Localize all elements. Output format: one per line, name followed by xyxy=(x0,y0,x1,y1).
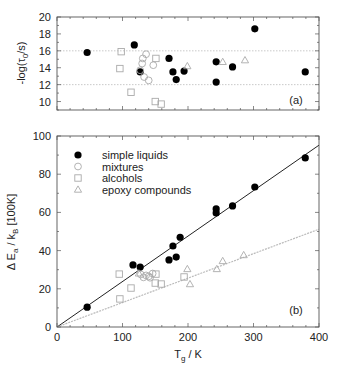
mixture-marker xyxy=(150,62,157,69)
legend-label: alcohols xyxy=(102,172,143,184)
simple-liquid-marker xyxy=(213,79,220,86)
mixture-marker xyxy=(145,77,152,84)
series-simple-liquids xyxy=(84,25,309,85)
x-tick-label: 200 xyxy=(179,331,197,343)
legend-label: mixtures xyxy=(102,161,144,173)
legend-item: simple liquids xyxy=(74,149,168,161)
legend-item: mixtures xyxy=(75,161,144,173)
panel-a-annotation: (a) xyxy=(289,94,302,106)
simple-liquid-marker xyxy=(229,202,236,209)
panel-b-xlabel: Tg / K xyxy=(174,348,202,363)
simple-liquid-marker xyxy=(169,242,176,249)
simple-liquid-marker xyxy=(302,68,309,75)
simple-liquid-marker xyxy=(84,304,91,311)
alcohol-marker xyxy=(152,98,158,104)
alcohol-marker xyxy=(128,285,134,291)
fit-line xyxy=(57,229,319,327)
simple-liquid-marker xyxy=(165,55,172,62)
alcohol-marker xyxy=(75,175,81,181)
y-tick-label: 80 xyxy=(39,168,51,180)
plot-frame xyxy=(57,136,319,327)
alcohol-marker xyxy=(128,89,134,95)
panel-b-ylabel: Δ Ea / kB [100K] xyxy=(5,194,20,270)
alcohol-marker xyxy=(152,280,158,286)
simple-liquid-marker xyxy=(213,58,220,65)
figure: 101214161820 0100200300400020406080100si… xyxy=(0,0,338,374)
y-tick-label: 40 xyxy=(39,245,51,257)
simple-liquid-marker xyxy=(251,25,258,32)
y-tick-label: 100 xyxy=(33,130,51,142)
legend-item: alcohols xyxy=(75,172,143,184)
simple-liquid-marker xyxy=(173,76,180,83)
panel-a-scatter: 101214161820 xyxy=(39,11,319,110)
y-tick-label: 20 xyxy=(39,283,51,295)
x-tick-label: 300 xyxy=(244,331,262,343)
epoxy-marker xyxy=(184,265,191,271)
series-mixtures xyxy=(137,51,157,84)
alcohol-marker xyxy=(117,296,123,302)
y-tick-label: 60 xyxy=(39,206,51,218)
legend-item: epoxy compounds xyxy=(74,184,191,196)
panel-b-annotation: (b) xyxy=(289,304,302,316)
y-tick-label: 14 xyxy=(39,62,51,74)
panel-a-ylabel: -log(τ0/s) xyxy=(15,41,30,84)
x-tick-label: 0 xyxy=(54,331,60,343)
simple-liquid-marker xyxy=(169,68,176,75)
simple-liquid-marker xyxy=(137,263,144,270)
simple-liquid-marker xyxy=(213,209,220,216)
simple-liquid-marker xyxy=(177,234,184,241)
alcohol-marker xyxy=(116,271,122,277)
x-tick-label: 400 xyxy=(310,331,328,343)
alcohol-marker xyxy=(153,55,159,61)
epoxy-marker xyxy=(219,58,226,64)
epoxy-marker xyxy=(213,265,220,271)
chart-svg: 101214161820 0100200300400020406080100si… xyxy=(0,0,338,374)
legend: simple liquidsmixturesalcoholsepoxy comp… xyxy=(74,149,191,196)
mixture-marker xyxy=(75,163,82,170)
simple-liquid-marker xyxy=(229,63,236,70)
simple-liquid-marker xyxy=(84,49,91,56)
epoxy-marker xyxy=(219,257,226,263)
epoxy-marker xyxy=(74,186,81,192)
alcohol-marker xyxy=(117,65,123,71)
y-tick-label: 18 xyxy=(39,28,51,40)
epoxy-marker xyxy=(241,57,248,63)
fit-line xyxy=(57,145,319,327)
mixture-marker xyxy=(141,74,148,81)
simple-liquid-marker xyxy=(302,154,309,161)
legend-label: simple liquids xyxy=(102,149,169,161)
y-tick-label: 10 xyxy=(39,96,51,108)
y-tick-label: 16 xyxy=(39,45,51,57)
simple-liquid-marker xyxy=(131,41,138,48)
simple-liquid-marker xyxy=(74,151,81,158)
y-tick-label: 12 xyxy=(39,79,51,91)
alcohol-marker xyxy=(158,281,164,287)
y-tick-label: 0 xyxy=(45,321,51,333)
epoxy-marker xyxy=(186,280,193,286)
simple-liquid-marker xyxy=(129,261,136,268)
legend-label: epoxy compounds xyxy=(102,184,192,196)
x-tick-label: 100 xyxy=(113,331,131,343)
simple-liquid-marker xyxy=(165,256,172,263)
simple-liquid-marker xyxy=(251,183,258,190)
y-tick-label: 20 xyxy=(39,11,51,23)
panel-b-scatter: 0100200300400020406080100simple liquidsm… xyxy=(33,130,329,343)
alcohol-marker xyxy=(118,48,124,54)
simple-liquid-marker xyxy=(173,253,180,260)
alcohol-marker xyxy=(158,101,164,107)
